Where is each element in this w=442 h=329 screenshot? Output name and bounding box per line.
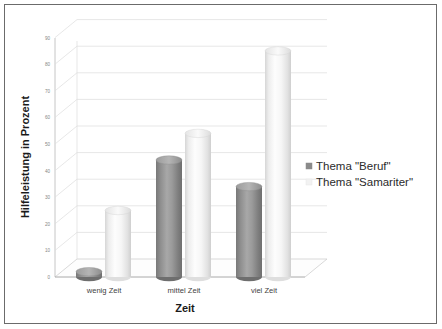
bar-samariter-mittel[interactable] (185, 129, 211, 281)
y-tick-30: 30 (45, 195, 51, 200)
bar-beruf-wenig[interactable] (76, 268, 102, 282)
y-tick-20: 20 (45, 222, 51, 227)
legend: Thema "Beruf" Thema "Samariter" (306, 160, 413, 188)
y-tick-10: 10 (45, 248, 51, 253)
legend-item-beruf[interactable]: Thema "Beruf" (306, 160, 391, 172)
x-axis-category-labels: wenig Zeit mittel Zeit viel Zeit (86, 286, 278, 295)
y-tick-70: 70 (45, 89, 51, 94)
legend-item-samariter[interactable]: Thema "Samariter" (306, 176, 413, 188)
y-axis-tick-labels: 0 10 20 30 40 50 60 70 80 90 (45, 36, 51, 280)
bar-chart-svg: 0 10 20 30 40 50 60 70 80 90 (5, 5, 438, 325)
legend-label-samariter: Thema "Samariter" (316, 176, 413, 188)
y-tick-90: 90 (45, 36, 51, 41)
y-tick-80: 80 (45, 62, 51, 67)
category-label-wenig: wenig Zeit (86, 286, 122, 295)
legend-swatch-samariter (306, 179, 312, 185)
x-axis-title: Zeit (175, 302, 195, 314)
y-tick-50: 50 (45, 142, 51, 147)
bar-beruf-mittel[interactable] (156, 156, 182, 281)
y-axis-title: Hilfeleistung in Prozent (19, 96, 31, 219)
y-tick-0: 0 (47, 275, 50, 280)
category-label-viel: viel Zeit (251, 286, 278, 295)
category-label-mittel: mittel Zeit (168, 286, 202, 295)
chart-frame: 0 10 20 30 40 50 60 70 80 90 (4, 4, 437, 324)
chart-canvas: 0 10 20 30 40 50 60 70 80 90 (5, 5, 438, 325)
y-tick-40: 40 (45, 169, 51, 174)
bar-beruf-viel[interactable] (236, 182, 262, 281)
bar-samariter-viel[interactable] (265, 47, 291, 281)
bar-samariter-wenig[interactable] (105, 206, 131, 281)
y-tick-60: 60 (45, 115, 51, 120)
legend-label-beruf: Thema "Beruf" (316, 160, 391, 172)
legend-swatch-beruf (306, 163, 312, 169)
